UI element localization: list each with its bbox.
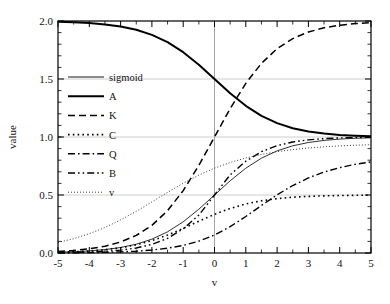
y-axis-title: value <box>6 125 18 149</box>
xtick-label: 4 <box>337 257 343 269</box>
chart-figure: -5-4-3-2-10123450.00.51.01.52.0vvaluesig… <box>0 0 390 304</box>
xtick-label: 5 <box>368 257 374 269</box>
xtick-label: -5 <box>53 257 63 269</box>
ytick-label: 0.0 <box>39 247 53 259</box>
legend-label-sigmoid: sigmoid <box>109 72 144 83</box>
legend-label-Q: Q <box>109 149 117 160</box>
xtick-label: 2 <box>274 257 280 269</box>
ytick-label: 1.5 <box>39 73 53 85</box>
xtick-label: -2 <box>147 257 156 269</box>
x-axis-title: v <box>212 276 218 288</box>
legend-label-v: v <box>109 187 115 198</box>
ytick-label: 1.0 <box>39 131 53 143</box>
line-chart: -5-4-3-2-10123450.00.51.01.52.0vvaluesig… <box>0 0 390 304</box>
ytick-label: 0.5 <box>39 189 53 201</box>
ytick-label: 2.0 <box>39 15 53 27</box>
legend-label-K: K <box>109 110 117 121</box>
xtick-label: 0 <box>212 257 218 269</box>
legend-label-B: B <box>109 168 116 179</box>
xtick-label: -4 <box>85 257 95 269</box>
xtick-label: -3 <box>116 257 126 269</box>
legend-label-C: C <box>109 130 116 141</box>
xtick-label: -1 <box>179 257 188 269</box>
xtick-label: 1 <box>243 257 249 269</box>
legend-label-A: A <box>109 91 117 102</box>
xtick-label: 3 <box>306 257 312 269</box>
